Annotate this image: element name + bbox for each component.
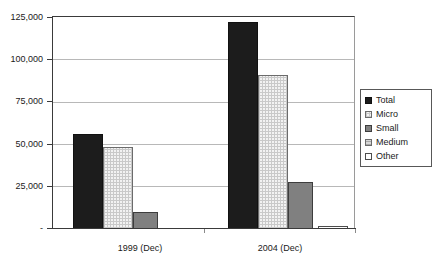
legend-label-total: Total	[376, 96, 395, 105]
y-tick-label-125000: 125,000	[10, 13, 43, 22]
y-tick-label-0: -	[40, 224, 43, 233]
bar-1999-small	[133, 212, 158, 229]
y-axis-labels: 125,000 100,000 75,000 50,000 25,000 -	[0, 0, 47, 259]
x-axis-label-1999: 1999 (Dec)	[80, 243, 200, 253]
legend-swatch-other-icon	[365, 153, 372, 160]
legend-label-medium: Medium	[376, 138, 408, 147]
legend-swatch-micro-icon	[365, 111, 372, 118]
legend-swatch-total-icon	[365, 97, 372, 104]
x-axis-label-2004: 2004 (Dec)	[220, 243, 340, 253]
bar-2004-total	[228, 22, 258, 229]
legend-label-other: Other	[376, 152, 399, 161]
bar-2004-small	[288, 182, 313, 229]
legend-swatch-small-icon	[365, 125, 372, 132]
legend-item-small: Small	[365, 121, 428, 135]
bar-2004-micro	[258, 75, 288, 229]
legend-item-total: Total	[365, 93, 428, 107]
legend-swatch-medium-icon	[365, 139, 372, 146]
chart-legend: Total Micro Small Medium Other	[360, 89, 432, 167]
plot-area	[52, 16, 355, 229]
x-tick-mark-mid	[204, 229, 205, 233]
legend-item-micro: Micro	[365, 107, 428, 121]
bar-1999-micro	[103, 147, 133, 229]
bar-1999-total	[73, 134, 103, 229]
x-tick-mark-end	[355, 229, 356, 233]
gridline-75000	[53, 102, 354, 103]
legend-item-medium: Medium	[365, 135, 428, 149]
y-tick-label-50000: 50,000	[15, 140, 43, 149]
y-tick-label-25000: 25,000	[15, 182, 43, 191]
y-tick-label-75000: 75,000	[15, 97, 43, 106]
bar-chart: 125,000 100,000 75,000 50,000 25,000 - 1…	[0, 0, 437, 259]
y-tick-label-100000: 100,000	[10, 55, 43, 64]
gridline-100000	[53, 59, 354, 60]
legend-label-small: Small	[376, 124, 399, 133]
legend-item-other: Other	[365, 149, 428, 163]
legend-label-micro: Micro	[376, 110, 398, 119]
